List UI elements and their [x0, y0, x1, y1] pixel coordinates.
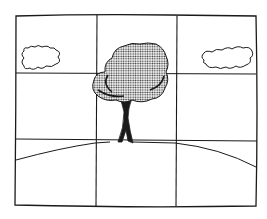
- hill-horizon: [16, 142, 256, 167]
- cloud-right: [202, 47, 253, 69]
- tree-trunk: [118, 98, 133, 143]
- tree: [93, 43, 168, 143]
- cloud-left: [22, 46, 60, 70]
- illustration-canvas: [0, 0, 267, 219]
